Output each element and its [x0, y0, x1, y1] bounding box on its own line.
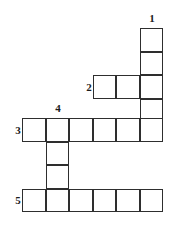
clue-number-4: 4 [52, 103, 64, 114]
clue-number-3: 3 [12, 125, 24, 136]
clue-number-2: 2 [83, 82, 95, 93]
clue-number-layer: 12345 [0, 0, 177, 231]
clue-number-1: 1 [146, 13, 158, 24]
crossword-puzzle: 12345 [0, 0, 177, 231]
clue-number-5: 5 [12, 195, 24, 206]
